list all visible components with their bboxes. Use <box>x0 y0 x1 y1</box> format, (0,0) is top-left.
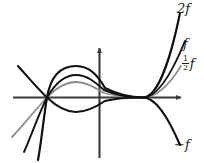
curve-label-half-f: 12f <box>182 55 194 72</box>
curve-label-f: f <box>183 37 188 50</box>
curve-label-2f: 2f <box>177 2 190 15</box>
curve-label-negative-f: −f <box>174 138 190 151</box>
half-f-function-letter: f <box>190 56 195 71</box>
fraction-denominator: 2 <box>182 64 189 72</box>
one-half-fraction: 12 <box>182 55 189 72</box>
function-scaling-figure: 2f f 12f −f <box>0 0 204 163</box>
